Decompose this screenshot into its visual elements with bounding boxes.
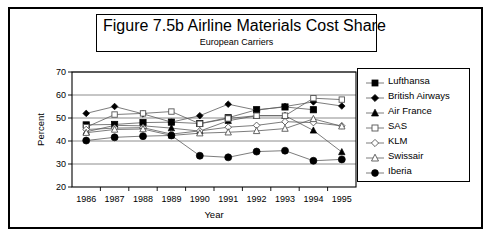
data-point-marker xyxy=(339,97,344,102)
data-point-marker xyxy=(310,127,316,133)
x-axis-tick-label: 1988 xyxy=(133,194,153,204)
data-point-marker xyxy=(310,107,316,113)
legend-item-label: SAS xyxy=(386,120,407,132)
figure-root: Figure 7.5b Airline Materials Cost Share… xyxy=(0,0,491,238)
data-point-marker xyxy=(111,103,118,110)
data-point-marker xyxy=(282,118,289,125)
data-point-marker xyxy=(282,147,289,154)
data-point-marker xyxy=(197,121,202,126)
line-chart-plot: 2030405060701986198719881989199019911992… xyxy=(30,60,360,225)
legend-item-klm[interactable]: KLM xyxy=(364,134,465,148)
data-point-marker xyxy=(112,112,117,117)
data-point-marker xyxy=(310,115,316,121)
y-axis-tick-label: 30 xyxy=(56,159,66,169)
legend-item-air-france[interactable]: Air France xyxy=(364,104,465,118)
series-line xyxy=(86,135,342,160)
filled-square-icon xyxy=(364,75,386,87)
x-axis-tick-label: 1992 xyxy=(247,194,267,204)
filled-triangle-icon xyxy=(364,105,386,117)
legend-item-label: Lufthansa xyxy=(386,75,430,87)
legend-item-label: Air France xyxy=(386,105,432,117)
legend-item-iberia[interactable]: Iberia xyxy=(364,164,465,178)
x-axis-tick-label: 1994 xyxy=(303,194,323,204)
data-point-marker xyxy=(282,113,287,118)
data-point-marker xyxy=(338,156,345,163)
y-axis-tick-label: 20 xyxy=(56,182,66,192)
y-axis-tick-label: 60 xyxy=(56,90,66,100)
x-axis-tick-label: 1990 xyxy=(190,194,210,204)
x-axis-tick-label: 1989 xyxy=(161,194,181,204)
legend-item-label: Iberia xyxy=(386,165,412,177)
x-axis-tick-label: 1995 xyxy=(332,194,352,204)
data-point-marker xyxy=(140,133,147,140)
page-title: Figure 7.5b Airline Materials Cost Share xyxy=(103,17,370,35)
data-point-marker xyxy=(253,148,260,155)
series-line xyxy=(86,102,342,122)
x-axis-tick-label: 1993 xyxy=(275,194,295,204)
open-square-icon xyxy=(364,120,386,132)
chart-title-box: Figure 7.5b Airline Materials Cost Share… xyxy=(96,14,377,52)
legend-item-label: Swissair xyxy=(386,150,423,162)
data-point-marker xyxy=(310,157,317,164)
data-point-marker xyxy=(83,137,90,144)
x-axis-tick-label: 1991 xyxy=(218,194,238,204)
y-axis-title: Percent xyxy=(35,113,46,146)
data-point-marker xyxy=(83,110,90,117)
legend-item-british-airways[interactable]: British Airways xyxy=(364,89,465,103)
chart-subtitle: European Carriers xyxy=(103,36,370,48)
x-axis-tick-label: 1986 xyxy=(76,194,96,204)
y-axis-tick-label: 40 xyxy=(56,136,66,146)
open-triangle-icon xyxy=(364,150,386,162)
data-point-marker xyxy=(311,96,316,101)
data-point-marker xyxy=(254,113,259,118)
y-axis-tick-label: 50 xyxy=(56,113,66,123)
legend-item-lufthansa[interactable]: Lufthansa xyxy=(364,74,465,88)
x-axis-title: Year xyxy=(204,209,223,220)
filled-diamond-icon xyxy=(364,90,386,102)
legend-item-swissair[interactable]: Swissair xyxy=(364,149,465,163)
filled-circle-icon xyxy=(364,165,386,177)
data-point-marker xyxy=(226,116,231,121)
series-line xyxy=(86,98,342,127)
data-point-marker xyxy=(339,149,345,155)
y-axis-tick-label: 70 xyxy=(56,67,66,77)
chart-legend: LufthansaBritish AirwaysAir FranceSASKLM… xyxy=(357,68,470,182)
data-point-marker xyxy=(169,109,174,114)
data-point-marker xyxy=(111,134,118,141)
data-point-marker xyxy=(225,101,232,108)
legend-item-label: KLM xyxy=(386,135,408,147)
data-point-marker xyxy=(196,152,203,159)
open-diamond-icon xyxy=(364,135,386,147)
data-point-marker xyxy=(140,111,145,116)
data-point-marker xyxy=(168,132,175,139)
x-axis-tick-label: 1987 xyxy=(105,194,125,204)
legend-item-sas[interactable]: SAS xyxy=(364,119,465,133)
legend-item-label: British Airways xyxy=(386,90,450,102)
data-point-marker xyxy=(225,154,232,161)
data-point-marker xyxy=(339,103,346,110)
